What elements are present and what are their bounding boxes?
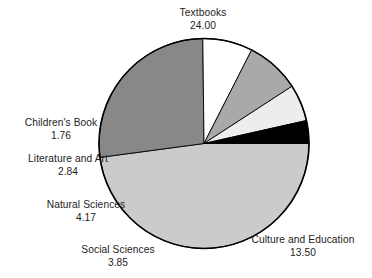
chart-canvas: Textbooks 24.00 Children's Book 1.76 Lit… bbox=[0, 0, 372, 278]
slice-label-social-sciences: Social Sciences 3.85 bbox=[58, 243, 178, 269]
slice-label-category: Textbooks bbox=[148, 6, 258, 19]
slice-label-value: 2.84 bbox=[2, 165, 134, 178]
slice-label-natural-sciences: Natural Sciences 4.17 bbox=[22, 198, 150, 224]
slice-label-textbooks: Textbooks 24.00 bbox=[148, 6, 258, 32]
slice-label-category: Natural Sciences bbox=[22, 198, 150, 211]
slice-label-value: 3.85 bbox=[58, 256, 178, 269]
slice-label-category: Culture and Education bbox=[238, 233, 368, 246]
slice-label-category: Social Sciences bbox=[58, 243, 178, 256]
slice-label-culture-and-education: Culture and Education 13.50 bbox=[238, 233, 368, 259]
slice-label-childrens-book: Children's Book 1.76 bbox=[6, 116, 116, 142]
slice-label-value: 1.76 bbox=[6, 129, 116, 142]
slice-label-literature-and-art: Literature and Art 2.84 bbox=[2, 152, 134, 178]
slice-label-value: 24.00 bbox=[148, 19, 258, 32]
slice-label-category: Children's Book bbox=[6, 116, 116, 129]
slice-label-value: 4.17 bbox=[22, 211, 150, 224]
slice-label-category: Literature and Art bbox=[2, 152, 134, 165]
slice-label-value: 13.50 bbox=[238, 246, 368, 259]
